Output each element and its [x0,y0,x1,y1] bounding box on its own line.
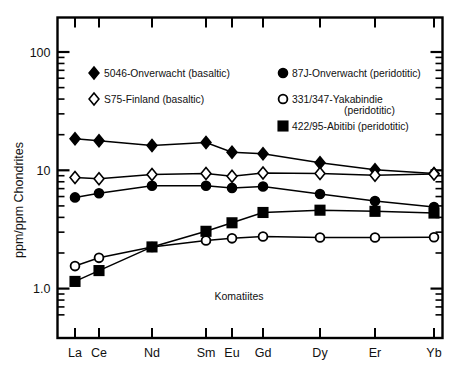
x-tick-label: Ce [91,346,107,360]
y-axis-ticks [58,52,443,315]
data-point [202,181,211,190]
data-point [228,234,237,243]
data-point [315,167,325,179]
x-tick-label: La [68,346,82,360]
data-point [371,233,380,242]
data-point [201,136,211,148]
data-point [429,208,439,218]
data-point [71,262,80,271]
y-axis-title: ppm/ppm Chondrites [12,142,26,258]
data-point [228,183,237,192]
data-point [147,169,157,181]
legend-marker [279,95,288,104]
data-series-layer [70,133,439,286]
x-tick-label: Eu [224,346,239,360]
data-point [259,232,268,241]
data-point [227,218,237,228]
data-point [430,233,439,242]
legend-label: 87J-Onverwacht (peridotitic) [292,68,421,79]
x-tick-label: Sm [197,346,216,360]
data-point [370,207,380,217]
series-line [75,210,434,281]
x-tick-label: Nd [144,346,160,360]
legend-marker [89,93,99,105]
data-point [94,173,104,185]
data-point [70,171,80,183]
series-2 [71,181,439,211]
data-point [70,133,80,145]
y-axis-tick-labels: 100101.0 [30,46,51,297]
data-point [70,277,80,287]
series-line [75,139,434,174]
data-point [315,205,325,215]
data-point [316,190,325,199]
legend-label: S75-Finland (basaltic) [104,94,204,105]
chart-svg: 100101.0 LaCeNdSmEuGdDyErYb ppm/ppm Chon… [0,0,458,365]
x-axis-tick-labels: LaCeNdSmEuGdDyErYb [68,346,442,360]
y-tick-label: 10 [37,164,51,178]
x-tick-label: Dy [312,346,328,360]
plot-annotation: Komatiites [214,290,263,302]
rare-earth-element-chart: 100101.0 LaCeNdSmEuGdDyErYb ppm/ppm Chon… [0,0,458,365]
x-tick-label: Er [369,346,382,360]
data-point [94,266,104,276]
legend-marker [279,69,288,78]
data-point [71,193,80,202]
legend-marker [278,121,288,131]
legend-label: 5046-Onverwacht (basaltic) [104,68,230,79]
data-point [227,146,237,158]
data-point [95,189,104,198]
series-line [75,236,434,266]
data-point [258,208,268,218]
data-point [258,167,268,179]
data-point [94,135,104,147]
series-3 [71,232,439,270]
data-point [371,197,380,206]
data-point [258,148,268,160]
data-point [147,242,157,252]
series-4 [70,205,439,286]
x-tick-label: Yb [426,346,441,360]
legend-marker [89,67,99,79]
data-point [147,140,157,152]
y-tick-label: 1.0 [33,282,50,296]
chart-legend: 5046-Onverwacht (basaltic)S75-Finland (b… [89,67,421,132]
data-point [201,227,211,237]
data-point [316,233,325,242]
data-point [95,253,104,262]
legend-label: 331/347-Yakabindie [292,94,383,105]
x-tick-label: Gd [255,346,272,360]
data-point [227,170,237,182]
legend-label: 422/95-Abitibi (peridotitic) [292,121,409,132]
series-0 [70,133,439,180]
data-point [259,182,268,191]
legend-label-cont: (peridotitic) [344,105,395,116]
data-point [201,167,211,179]
data-point [148,181,157,190]
series-line [75,186,434,207]
y-tick-label: 100 [30,46,51,60]
data-point [202,236,211,245]
